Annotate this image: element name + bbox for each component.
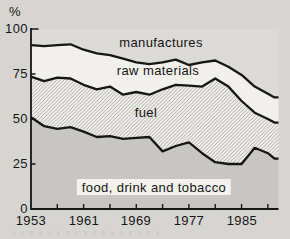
x-tick-label-1953: 1953 [9, 214, 53, 227]
y-tick-label-75: 75 [2, 67, 28, 80]
band-label-food-drink-tobacco: food, drink and tobacco [77, 179, 231, 195]
stacked-area-chart-figure: % 100 75 50 25 0 1953 1961 1969 1977 198… [0, 0, 290, 239]
band-label-fuel: fuel [135, 106, 158, 119]
x-tick-label-1977: 1977 [167, 214, 211, 227]
y-tick-label-100: 100 [2, 22, 28, 35]
band-label-raw-materials: raw materials [117, 64, 200, 77]
x-tick-label-1969: 1969 [114, 214, 158, 227]
y-tick-label-25: 25 [2, 157, 28, 170]
y-axis-unit-label: % [9, 5, 21, 18]
x-tick-label-1985: 1985 [220, 214, 264, 227]
x-tick-label-1961: 1961 [62, 214, 106, 227]
y-tick-label-50: 50 [2, 112, 28, 125]
scan-artifact-cropped-text [12, 231, 162, 235]
band-label-manufactures: manufactures [119, 36, 203, 49]
